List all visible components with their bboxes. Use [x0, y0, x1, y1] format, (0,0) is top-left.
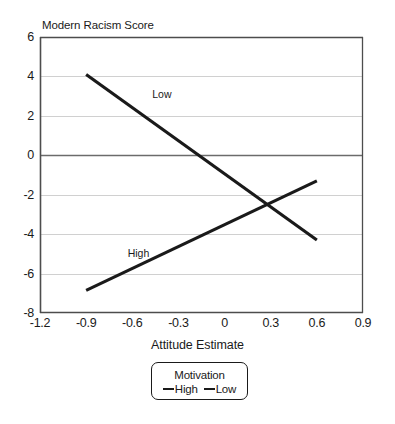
y-tick-label: -2: [0, 189, 34, 201]
legend-entry-label: Low: [216, 383, 237, 396]
series-annotation-high: High: [128, 248, 150, 259]
y-tick-label: 4: [0, 70, 34, 82]
y-tick-label: 6: [0, 31, 34, 43]
plot-background: [40, 37, 363, 313]
y-tick-label: -6: [0, 268, 34, 280]
legend-title: Motivation: [174, 368, 224, 382]
plot-canvas: [0, 0, 395, 424]
legend-entry-label: High: [175, 383, 198, 396]
x-axis-title: Attitude Estimate: [0, 338, 395, 352]
legend: Motivation HighLow: [151, 362, 248, 400]
legend-entry-high: High: [163, 383, 198, 396]
series-annotation-low: Low: [152, 89, 171, 100]
legend-entry-low: Low: [204, 383, 237, 396]
y-tick-label: -4: [0, 228, 34, 240]
x-tick-label: 0.9: [335, 317, 391, 329]
legend-entries: HighLow: [163, 383, 236, 396]
y-tick-label: 0: [0, 149, 34, 161]
y-tick-label: 2: [0, 110, 34, 122]
legend-line-swatch: [163, 388, 174, 390]
legend-line-swatch: [204, 388, 215, 390]
chart-figure: Modern Racism Score 6420-2-4-6-8 -1.2-0.…: [0, 0, 395, 424]
